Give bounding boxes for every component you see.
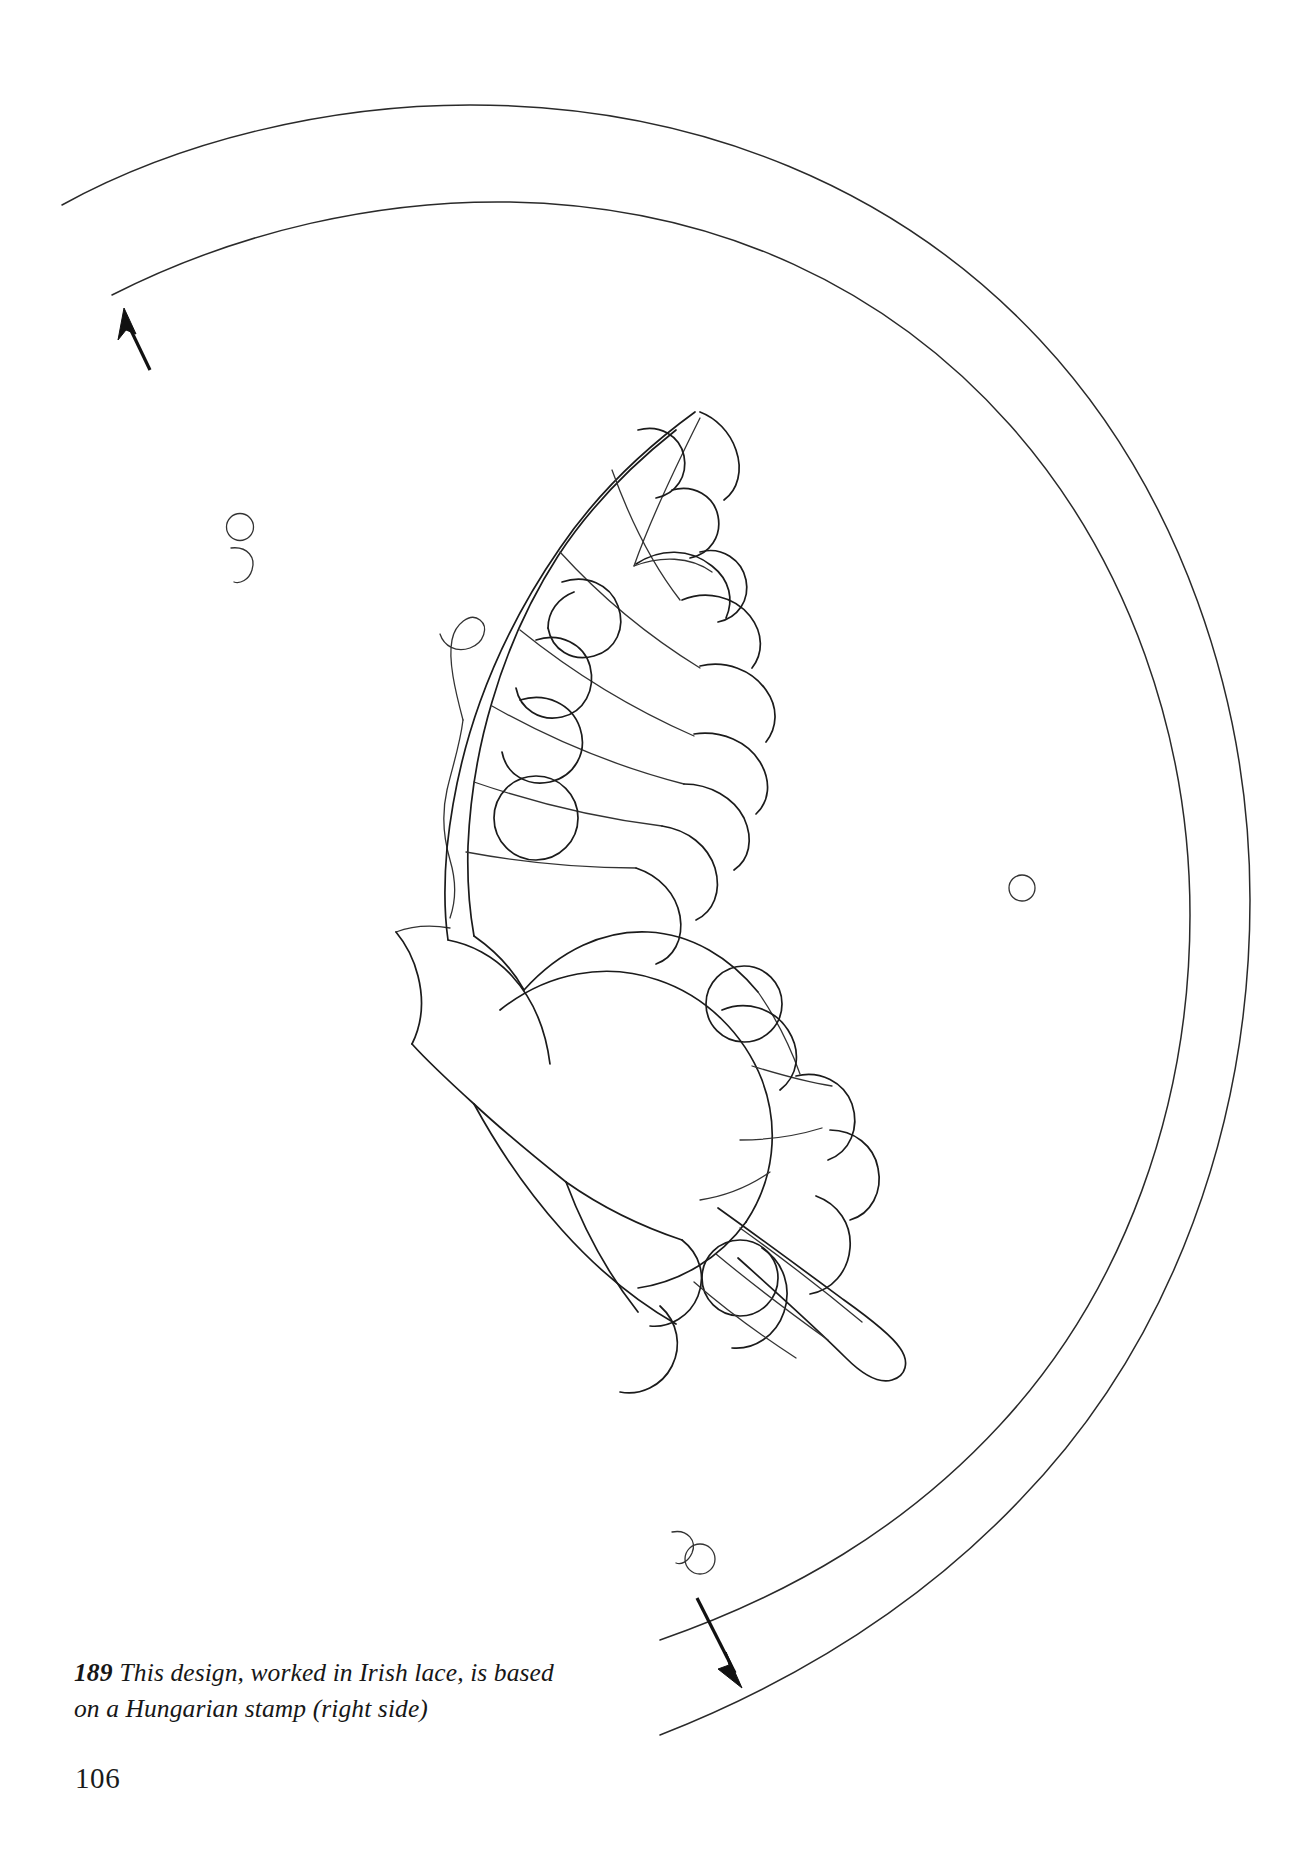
forewing-top-circles	[638, 428, 747, 622]
butterfly-tail	[694, 1208, 906, 1381]
butterfly-antenna	[396, 617, 485, 932]
hindwing-scallops	[722, 1006, 879, 1348]
stitch-marker-right	[1009, 875, 1035, 901]
direction-arrow-top	[118, 308, 150, 370]
hindwing-circles	[702, 966, 782, 1316]
pattern-illustration	[0, 0, 1312, 1859]
stitch-marker-bottom	[672, 1532, 715, 1574]
hindwing-inner-edge	[474, 1104, 676, 1324]
caption-paragraph: 189This design, worked in Irish lace, is…	[74, 1655, 694, 1727]
forewing-veins	[466, 418, 712, 868]
figure-caption: 189This design, worked in Irish lace, is…	[74, 1655, 694, 1727]
inner-border-arc	[112, 202, 1190, 1640]
page-number: 106	[75, 1762, 120, 1795]
direction-arrow-bottom	[697, 1598, 742, 1688]
stitch-marker-left	[227, 514, 254, 583]
figure-number: 189	[74, 1658, 113, 1687]
hindwing-veins	[700, 992, 832, 1200]
forewing-outline	[445, 412, 695, 940]
outer-border-arc	[62, 105, 1250, 1735]
hindwing-outline	[412, 932, 758, 1240]
caption-line-2: on a Hungarian stamp (right side)	[74, 1694, 428, 1723]
forewing-inner-circles	[494, 579, 621, 860]
butterfly-body	[396, 932, 550, 1064]
tail-scallops	[620, 1240, 701, 1393]
book-page: 189This design, worked in Irish lace, is…	[0, 0, 1312, 1859]
butterfly-lace-motif	[396, 412, 906, 1393]
caption-line-1: This design, worked in Irish lace, is ba…	[120, 1658, 554, 1687]
